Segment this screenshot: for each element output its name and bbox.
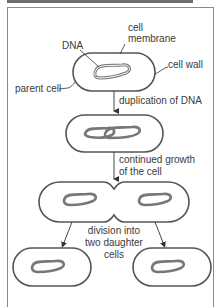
svg-text:DNA: DNA (62, 40, 83, 51)
daughter-cell-right (133, 248, 211, 286)
label-cell-wall: cell wall (155, 59, 203, 74)
step-duplication-text: duplication of DNA (119, 95, 202, 106)
step-division-text-2: two daughter (85, 237, 143, 248)
arrow-division-left (63, 222, 72, 245)
svg-text:parent cell: parent cell (15, 83, 61, 94)
label-parent-cell: parent cell (15, 82, 75, 94)
arrow-division-right (155, 222, 164, 245)
svg-text:cell wall: cell wall (168, 59, 203, 70)
daughter-cell-left (13, 248, 91, 286)
step-growth-text-2: of the cell (119, 166, 162, 177)
dividing-cell (39, 182, 189, 222)
step-division-text-3: cells (104, 249, 124, 260)
step-division-text-1: division into (88, 225, 141, 236)
parent-cell (73, 53, 155, 91)
cell-duplicated-dna (66, 115, 163, 152)
svg-text:membrane: membrane (128, 33, 176, 44)
svg-text:cell: cell (128, 22, 143, 33)
step-growth-text-1: continued growth (119, 154, 195, 165)
label-cell-membrane: cell membrane (120, 22, 176, 54)
